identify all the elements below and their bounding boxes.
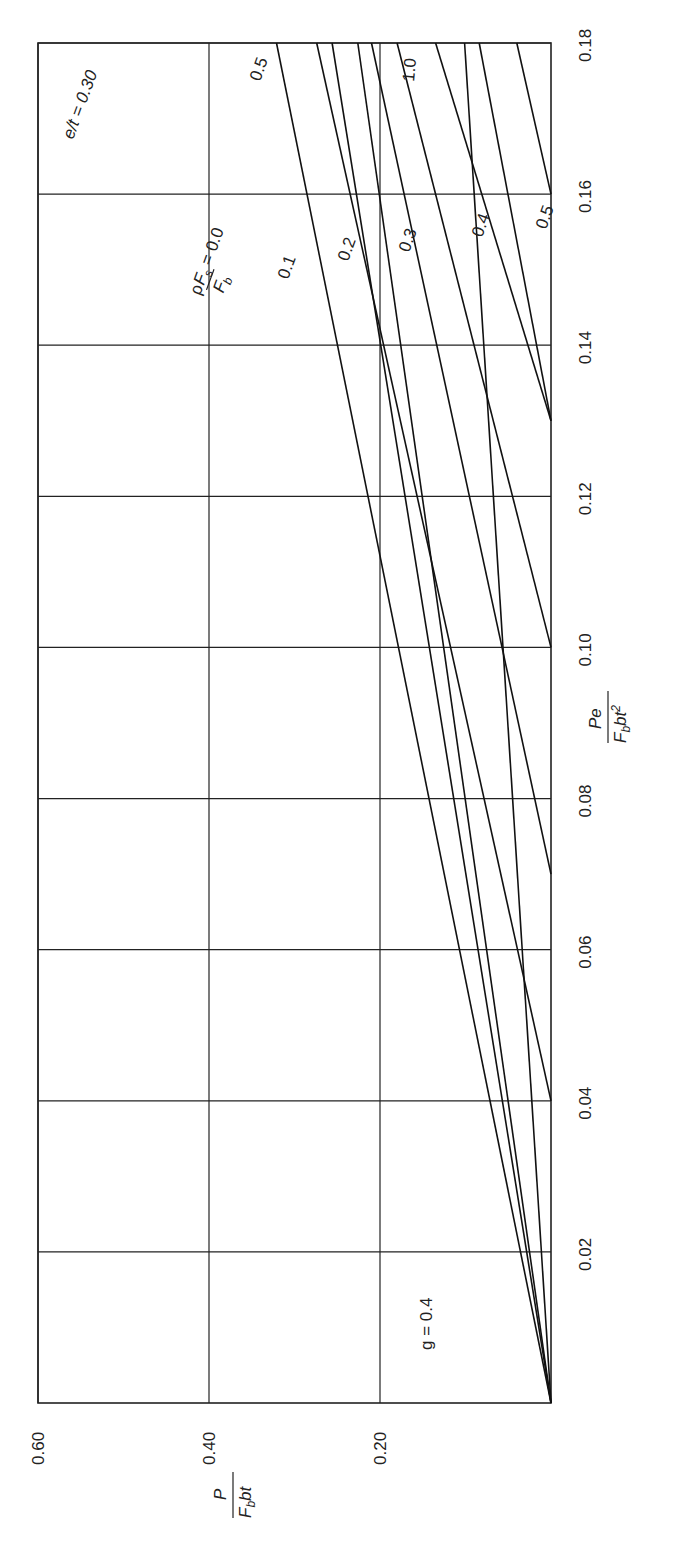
x-tick-label: 0.04 (576, 1087, 595, 1120)
curve-rho (517, 43, 551, 194)
svg-text:Fbbt: Fbbt (236, 1485, 258, 1518)
curve-rho (479, 43, 551, 421)
rho-01-label: 0.1 (274, 253, 300, 282)
curve-e/t (465, 43, 551, 1403)
x-tick-label: 0.16 (576, 180, 595, 213)
y-tick-label: 0.40 (200, 1432, 219, 1465)
et-030-label: e/t = 0.30 (59, 67, 101, 141)
et-05-label: 0.5 (246, 55, 272, 84)
plot-frame (38, 43, 551, 1403)
x-tick-label: 0.02 (576, 1238, 595, 1271)
rho-label: ρFs = 0.0 Fb (186, 225, 250, 306)
rho-04-label: 0.4 (468, 211, 494, 240)
g-label: g = 0.4 (417, 1298, 436, 1350)
curve-rho (436, 43, 551, 421)
x-axis-label: Pe Fbbt2 (586, 691, 633, 743)
curve-rho (317, 43, 551, 1101)
x-tick-label: 0.06 (576, 936, 595, 969)
et-10-label: 1.0 (399, 57, 420, 82)
y-tick-label: 0.20 (371, 1432, 390, 1465)
svg-text:Fbbt2: Fbbt2 (609, 705, 633, 743)
svg-text:P: P (211, 1488, 230, 1500)
y-tick-label: 0.60 (29, 1432, 48, 1465)
rho-02-label: 0.2 (334, 235, 360, 264)
interaction-chart: 0.020.040.060.080.100.120.140.160.180.20… (0, 0, 680, 1542)
x-tick-label: 0.10 (576, 633, 595, 666)
x-tick-label: 0.12 (576, 482, 595, 515)
x-tick-label: 0.18 (576, 29, 595, 62)
x-tick-label: 0.14 (576, 331, 595, 364)
svg-text:Pe: Pe (586, 708, 605, 729)
y-axis-label: P Fbbt (211, 1472, 258, 1518)
x-tick-label: 0.08 (576, 784, 595, 817)
grid (38, 43, 551, 1403)
curve-e/t (358, 43, 551, 1403)
rho-05-label: 0.5 (532, 203, 558, 232)
